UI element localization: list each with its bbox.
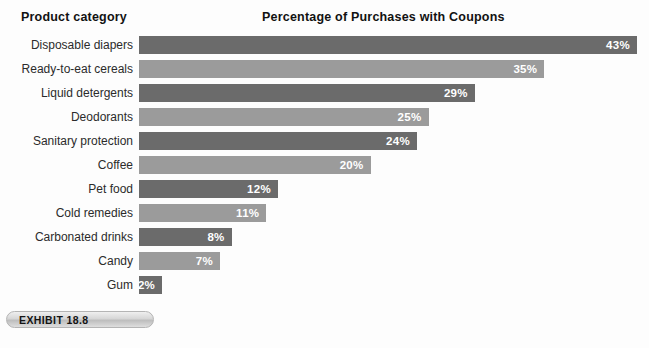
bar-value-label: 43% — [606, 39, 637, 51]
bar-category-label: Liquid detergents — [0, 84, 133, 102]
bar-category-label: Pet food — [0, 180, 133, 198]
bar-category-label: Gum — [0, 276, 133, 294]
bar: 35% — [139, 60, 544, 78]
bar-value-label: 8% — [207, 231, 231, 243]
bar-value-label: 7% — [196, 255, 220, 267]
bar-value-label: 20% — [340, 159, 371, 171]
bar-value-label: 12% — [247, 183, 278, 195]
product-category-header: Product category — [21, 10, 127, 24]
bar-row: Gum2% — [0, 276, 649, 294]
bar: 11% — [139, 204, 266, 222]
bar-row: Coffee20% — [0, 156, 649, 174]
bar: 20% — [139, 156, 371, 174]
bar-row: Sanitary protection24% — [0, 132, 649, 150]
bar-value-label: 29% — [444, 87, 475, 99]
exhibit-badge-label: EXHIBIT 18.8 — [7, 314, 89, 326]
bar-row: Deodorants25% — [0, 108, 649, 126]
bar-category-label: Sanitary protection — [0, 132, 133, 150]
bar-category-label: Coffee — [0, 156, 133, 174]
bar-value-label: 2% — [138, 279, 162, 291]
bar-category-label: Ready-to-eat cereals — [0, 60, 133, 78]
bar-category-label: Carbonated drinks — [0, 228, 133, 246]
bar: 29% — [139, 84, 475, 102]
bar-value-label: 24% — [386, 135, 417, 147]
bar: 24% — [139, 132, 417, 150]
chart-title: Percentage of Purchases with Coupons — [262, 10, 505, 24]
bar-row: Ready-to-eat cereals35% — [0, 60, 649, 78]
bar: 12% — [139, 180, 278, 198]
bar: 8% — [139, 228, 232, 246]
bar-category-label: Cold remedies — [0, 204, 133, 222]
bar-value-label: 11% — [236, 207, 266, 219]
bar-category-label: Deodorants — [0, 108, 133, 126]
bar: 2% — [139, 276, 162, 294]
bar-value-label: 25% — [398, 111, 429, 123]
bar-value-label: 35% — [513, 63, 544, 75]
exhibit-badge: EXHIBIT 18.8 — [6, 311, 154, 328]
bar: 7% — [139, 252, 220, 270]
exhibit-chart-page: Product category Percentage of Purchases… — [0, 0, 649, 348]
bar-row: Pet food12% — [0, 180, 649, 198]
bar-row: Cold remedies11% — [0, 204, 649, 222]
bar-row: Disposable diapers43% — [0, 36, 649, 54]
bar-row: Candy7% — [0, 252, 649, 270]
bar: 25% — [139, 108, 429, 126]
bar-row: Liquid detergents29% — [0, 84, 649, 102]
bar: 43% — [139, 36, 637, 54]
bar-category-label: Disposable diapers — [0, 36, 133, 54]
bar-chart-plot-area: Disposable diapers43%Ready-to-eat cereal… — [0, 36, 649, 298]
bar-category-label: Candy — [0, 252, 133, 270]
bar-row: Carbonated drinks8% — [0, 228, 649, 246]
